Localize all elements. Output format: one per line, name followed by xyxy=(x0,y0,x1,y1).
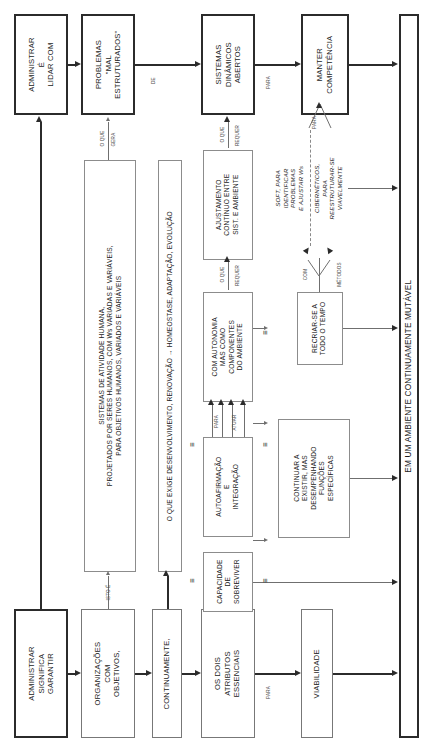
box-continuar-a-existir: CONTINUAR AEXISTIR, MASDESEMPENHANDOFUNÇ… xyxy=(278,419,350,538)
box-label: CONTINUAR AEXISTIR, MASDESEMPENHANDOFUNÇ… xyxy=(293,447,335,510)
equivalence-mark-2: ≡ xyxy=(188,578,197,583)
arrowhead-right xyxy=(195,670,201,676)
connector-label-metodos: MÉTODOS xyxy=(337,262,342,287)
box-label: MANTERCOMPETÊNCIA xyxy=(315,36,334,94)
connector-ajustamento-to-sistemas xyxy=(228,122,229,148)
equivalence-mark-1: ≡ xyxy=(188,442,197,447)
connector-label-para-top: PARA xyxy=(266,76,271,89)
arrowhead-right xyxy=(75,61,81,67)
connector-metodos-to-ambiente xyxy=(348,188,393,189)
arrowhead-right xyxy=(146,670,152,676)
box-ambiente-continuamente-mutavel: EM UM AMBIENTE CONTINUAMENTE MUTÁVEL xyxy=(399,14,419,738)
box-label: EM UM AMBIENTE CONTINUAMENTE MUTÁVEL xyxy=(404,280,415,473)
connector-administrar-to-problemas xyxy=(68,64,75,66)
arrowhead-up-light xyxy=(106,117,110,121)
box-ajustamento-continuo: AJUSTAMENTOCONTÍNUO ENTRESIST. E AMBIENT… xyxy=(203,150,253,260)
arrowhead-right xyxy=(392,185,398,191)
connector-autonomia-to-ajustamento xyxy=(228,262,229,290)
box-label: ADMINISTRARÉLIDAR COM xyxy=(26,37,55,92)
connector-label-com: COM xyxy=(303,269,308,280)
arrowhead-up xyxy=(228,399,234,405)
connector-autoafirmacao-d xyxy=(244,405,245,437)
connector-label-para-competencia: PARA xyxy=(312,116,317,129)
connector-problemas-to-sistemas xyxy=(135,64,195,66)
arrowhead-up xyxy=(240,399,246,405)
arrowhead-right xyxy=(392,579,398,585)
arrowhead-up xyxy=(208,399,214,405)
box-recriar-se-a-todo-o-tempo: RECRIAR-SE ATODO O TEMPO xyxy=(297,292,343,365)
box-label: SOFT, PARAIDENTIFICARPROBLEMASE AJUSTAR … xyxy=(276,165,307,210)
connector-manter-to-ambiente xyxy=(349,64,393,66)
connector-label-requer-2: REQUER xyxy=(235,265,240,286)
box-metodos-soft: SOFT, PARAIDENTIFICARPROBLEMASE AJUSTAR … xyxy=(272,128,310,248)
arrowhead-right xyxy=(392,670,398,676)
arrowhead-right-light xyxy=(264,538,268,542)
equivalence-mark-5: ≡ xyxy=(261,330,270,335)
connector-label-para-atuar-a: PARA xyxy=(214,415,219,428)
box-label: SISTEMASDINÂMICOSABERTOS xyxy=(213,42,242,87)
box-os-dois-atributos-essenciais: OS DOISATRIBUTOSESSENCIAIS xyxy=(201,609,255,738)
connector-label-gera: GERA xyxy=(111,133,116,147)
arrowhead-right xyxy=(392,475,398,481)
box-capacidade-de-sobreviver: CAPACIDADEDESOBREVIVER xyxy=(203,552,253,612)
box-label: AUTOAFIRMAÇÃOEINTEGRAÇÃO xyxy=(215,457,240,517)
arrowhead-right xyxy=(392,325,398,331)
connector-fork-para-competencia xyxy=(296,104,346,132)
box-label: SISTEMAS DE ATIVIDADE HUMANA,PROJETADOS … xyxy=(97,246,122,487)
connector-label-isto-e: ISTO É xyxy=(106,584,111,600)
box-continuamente: CONTINUAMENTE, xyxy=(152,609,182,738)
box-sistemas-de-atividade-humana: SISTEMAS DE ATIVIDADE HUMANA,PROJETADOS … xyxy=(84,160,136,572)
box-problemas-mal-estruturados: PROBLEMAS"MALESTRUTURADOS" xyxy=(81,14,135,115)
connector-label-de: DE xyxy=(151,77,156,84)
box-label: CIBERNÉTICOS,PARAREESTRUTURAR-SEVIAVELME… xyxy=(314,157,345,219)
box-o-que-exige-desenvolvimento: O QUE EXIGE DESENVOLVIMENTO, RENOVAÇÃO →… xyxy=(158,160,182,572)
equivalence-mark-3: ≡ xyxy=(261,442,270,447)
box-label: RECRIAR-SE ATODO O TEMPO xyxy=(312,302,329,355)
arrowhead-right xyxy=(75,670,81,676)
arrowhead-up xyxy=(218,399,224,405)
connector-capacidade-to-ambiente xyxy=(253,582,393,583)
box-com-autonomia: COM AUTONOMIAMAS COMOCOMPONENTESDO AMBIE… xyxy=(203,292,253,402)
arrowhead-right xyxy=(195,61,201,67)
arrowhead-up xyxy=(163,570,169,576)
box-sistemas-dinamicos-abertos: SISTEMASDINÂMICOSABERTOS xyxy=(201,14,255,115)
arrowhead-up xyxy=(36,116,42,122)
arrowhead-up-para-competencia xyxy=(316,102,322,108)
box-label: ORGANIZAÇÕESCOMOBJETIVOS, xyxy=(93,642,122,706)
box-viabilidade: VIABILIDADE xyxy=(301,609,333,738)
connector-label-o-que: O QUE xyxy=(100,131,105,147)
arrowhead-right xyxy=(295,670,301,676)
connector-recriar-to-ambiente xyxy=(343,328,393,329)
connector-viabilidade-to-ambiente xyxy=(333,673,393,675)
box-label: O QUE EXIGE DESENVOLVIMENTO, RENOVAÇÃO →… xyxy=(166,211,174,521)
connector-continuar-to-ambiente xyxy=(350,478,393,479)
connector-label-o-que-2: O QUE xyxy=(220,267,225,283)
connector-sistemas-to-manter xyxy=(255,64,295,66)
connector-atividade-to-problemas xyxy=(108,122,109,160)
connector-garantir-to-organizacoes xyxy=(68,673,75,675)
diagram-canvas: ADMINISTRARÉLIDAR COM PROBLEMAS"MALESTRU… xyxy=(0,0,426,752)
connector-label-para-atuar-b: ATUAR xyxy=(232,414,237,430)
connector-continuamente-to-osdois xyxy=(182,673,195,675)
arrowhead-up-light xyxy=(106,571,110,575)
box-label: PROBLEMAS"MALESTRUTURADOS" xyxy=(93,30,122,98)
box-label: COM AUTONOMIAMAS COMOCOMPONENTESDO AMBIE… xyxy=(211,317,245,376)
box-organizacoes-com-objetivos: ORGANIZAÇÕESCOMOBJETIVOS, xyxy=(81,609,135,738)
box-administrar-significa-garantir: ADMINISTRARSIGNIFICAGARANTIR xyxy=(14,609,68,738)
box-label: CONTINUAMENTE, xyxy=(162,638,172,709)
connector-label-para-viabilidade: PARA xyxy=(266,686,271,699)
box-label: AJUSTAMENTOCONTÍNUO ENTRESIST. E AMBIENT… xyxy=(215,174,240,236)
connector-label-requer-1: REQUER xyxy=(235,125,240,146)
arrowhead-up xyxy=(224,116,230,122)
box-label: OS DOISATRIBUTOSESSENCIAIS xyxy=(213,650,242,698)
equivalence-mark-4: ≡ xyxy=(261,578,270,583)
arrowhead-right-light xyxy=(264,421,268,425)
divider-metodos xyxy=(310,130,311,246)
box-label: VIABILIDADE xyxy=(312,649,322,698)
box-label: CAPACIDADEDESOBREVIVER xyxy=(215,560,240,605)
connector-autoafirmacao-b xyxy=(222,405,223,437)
connector-label-o-que-1: O QUE xyxy=(220,127,225,143)
box-label: ADMINISTRARSIGNIFICAGARANTIR xyxy=(26,646,55,701)
connector-autoafirmacao-a xyxy=(212,405,213,437)
connector-organizacoes-to-continuamente xyxy=(135,673,146,675)
